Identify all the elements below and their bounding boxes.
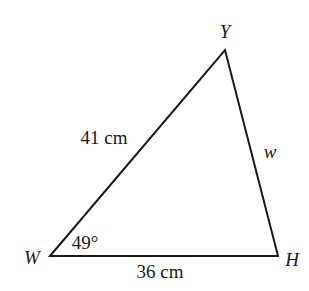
vertex-label-h: H: [284, 249, 300, 270]
triangle-wyh: [50, 50, 278, 256]
side-label-wh: 36 cm: [137, 261, 184, 282]
triangle-diagram: Y W H 41 cm w 36 cm 49°: [0, 0, 309, 291]
vertex-label-w: W: [24, 247, 42, 268]
vertex-label-y: Y: [220, 21, 233, 42]
angle-label-w: 49°: [72, 232, 99, 253]
side-label-wy: 41 cm: [81, 127, 128, 148]
side-label-yh: w: [264, 141, 277, 162]
